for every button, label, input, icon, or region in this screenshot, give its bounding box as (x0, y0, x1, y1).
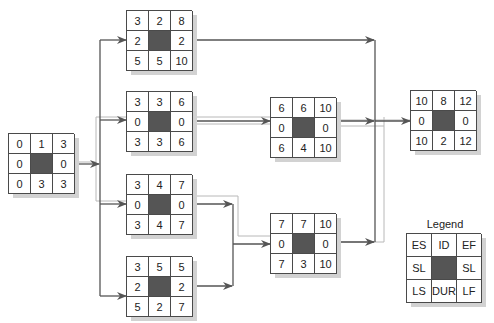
node-center-fill (293, 118, 315, 138)
ls-value: 3 (127, 132, 149, 152)
slack-right-value: 2 (171, 277, 193, 297)
legend-lf-label: LF (457, 280, 482, 303)
duration-value: 5 (149, 51, 171, 71)
legend-ls-label: LS (407, 280, 432, 303)
slack-left-value: 2 (127, 277, 149, 297)
id-value: 7 (293, 214, 315, 234)
node-center-fill (149, 112, 171, 132)
slack-right-value: 0 (455, 111, 477, 131)
duration-value: 3 (149, 132, 171, 152)
es-value: 7 (271, 214, 293, 234)
duration-value: 3 (293, 254, 315, 274)
node-center-fill (433, 111, 455, 131)
node-center-fill (293, 234, 315, 254)
legend-sl-right-label: SL (457, 257, 482, 280)
node-center-fill (31, 154, 53, 174)
slack-left-value: 2 (127, 31, 149, 51)
legend-ef-label: EF (457, 234, 482, 257)
ef-value: 12 (455, 91, 477, 111)
node-center-fill (149, 31, 171, 51)
es-value: 10 (411, 91, 433, 111)
legend-sl-left-label: SL (407, 257, 432, 280)
duration-value: 4 (149, 215, 171, 235)
duration-value: 3 (31, 174, 53, 194)
es-value: 6 (271, 98, 293, 118)
activity-node-1: 0 1 3 0 0 0 3 3 (8, 133, 74, 193)
id-value: 4 (149, 175, 171, 195)
lf-value: 12 (455, 131, 477, 151)
slack-right-value: 2 (171, 31, 193, 51)
ef-value: 6 (171, 92, 193, 112)
slack-left-value: 0 (271, 118, 293, 138)
ls-value: 6 (271, 138, 293, 158)
slack-right-value: 0 (171, 112, 193, 132)
activity-node-4: 3 4 7 0 0 3 4 7 (126, 174, 192, 234)
es-value: 3 (127, 257, 149, 277)
es-value: 3 (127, 92, 149, 112)
activity-node-2: 3 2 8 2 2 5 5 10 (126, 10, 192, 70)
legend-key: ES ID EF SL SL LS DUR LF (406, 233, 481, 302)
ls-value: 0 (9, 174, 31, 194)
activity-node-6: 6 6 10 0 0 6 4 10 (270, 97, 336, 157)
activity-node-3: 3 3 6 0 0 3 3 6 (126, 91, 192, 151)
id-value: 6 (293, 98, 315, 118)
activity-node-8: 10 8 12 0 0 10 2 12 (410, 90, 476, 150)
lf-value: 10 (315, 138, 337, 158)
duration-value: 2 (433, 131, 455, 151)
id-value: 3 (149, 92, 171, 112)
ls-value: 10 (411, 131, 433, 151)
ls-value: 5 (127, 51, 149, 71)
ls-value: 7 (271, 254, 293, 274)
ls-value: 3 (127, 215, 149, 235)
activity-node-7: 7 7 10 0 0 7 3 10 (270, 213, 336, 273)
duration-value: 4 (293, 138, 315, 158)
ef-value: 7 (171, 175, 193, 195)
es-value: 0 (9, 134, 31, 154)
duration-value: 2 (149, 297, 171, 317)
slack-left-value: 0 (411, 111, 433, 131)
ef-value: 8 (171, 11, 193, 31)
lf-value: 7 (171, 297, 193, 317)
legend-title: Legend (405, 218, 485, 230)
ef-value: 10 (315, 98, 337, 118)
slack-right-value: 0 (315, 234, 337, 254)
legend-es-label: ES (407, 234, 432, 257)
id-value: 8 (433, 91, 455, 111)
slack-left-value: 0 (127, 112, 149, 132)
legend-center-fill (432, 257, 457, 280)
activity-node-5: 3 5 5 2 2 5 2 7 (126, 256, 192, 316)
lf-value: 7 (171, 215, 193, 235)
id-value: 1 (31, 134, 53, 154)
legend-dur-label: DUR (432, 280, 457, 303)
id-value: 2 (149, 11, 171, 31)
slack-right-value: 0 (53, 154, 75, 174)
ef-value: 5 (171, 257, 193, 277)
lf-value: 3 (53, 174, 75, 194)
lf-value: 10 (315, 254, 337, 274)
node-center-fill (149, 277, 171, 297)
ef-value: 10 (315, 214, 337, 234)
id-value: 5 (149, 257, 171, 277)
node-center-fill (149, 195, 171, 215)
lf-value: 6 (171, 132, 193, 152)
slack-right-value: 0 (315, 118, 337, 138)
slack-left-value: 0 (9, 154, 31, 174)
lf-value: 10 (171, 51, 193, 71)
ef-value: 3 (53, 134, 75, 154)
legend-id-label: ID (432, 234, 457, 257)
slack-left-value: 0 (127, 195, 149, 215)
ls-value: 5 (127, 297, 149, 317)
slack-right-value: 0 (171, 195, 193, 215)
slack-left-value: 0 (271, 234, 293, 254)
es-value: 3 (127, 11, 149, 31)
es-value: 3 (127, 175, 149, 195)
